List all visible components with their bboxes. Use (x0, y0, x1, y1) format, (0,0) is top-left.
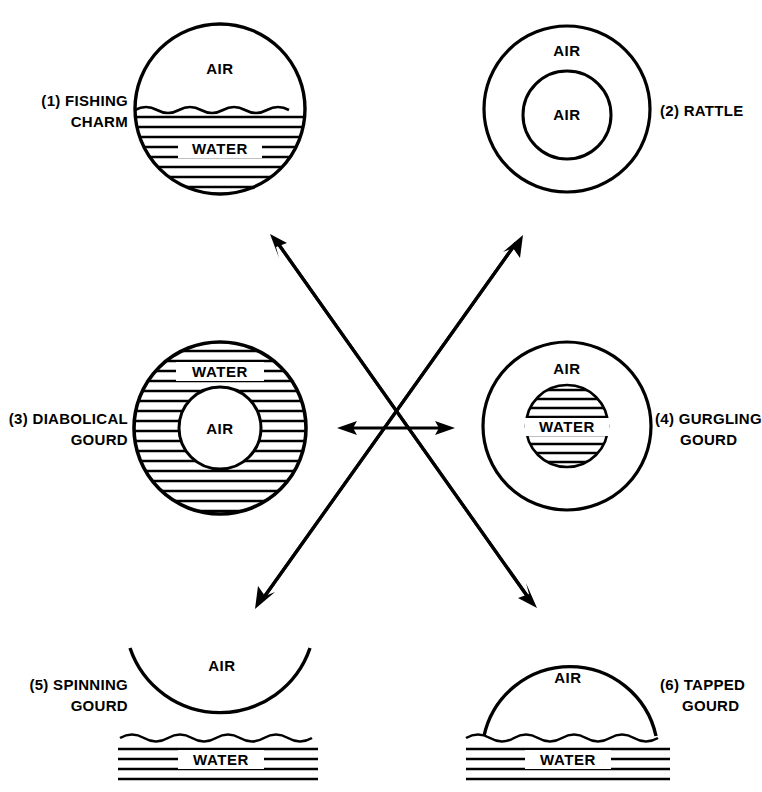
gourd-configurations-figure: AIR WATER (1) FISHING CHARM AIR AIR (2) … (0, 0, 762, 792)
arrow-down-right (277, 242, 537, 608)
tapped-gourd-surface-wave (466, 735, 658, 742)
panel-rattle: AIR AIR (2) RATTLE (484, 26, 744, 192)
panel-gurgling-gourd: AIR WATER (4) GURGLING GOURD (483, 342, 762, 510)
callout-tapped-gourd-line1: (6) TAPPED (660, 676, 745, 693)
callout-diabolical-gourd-line1: (3) DIABOLICAL (9, 410, 128, 427)
fishing-charm-water-label: WATER (192, 140, 248, 157)
tapped-gourd-water-label: WATER (540, 751, 596, 768)
tapped-gourd-air-label: AIR (554, 669, 582, 686)
callout-fishing-charm-line1: (1) FISHING (41, 92, 128, 109)
fishing-charm-surface-wave (135, 107, 289, 113)
panel-diabolical-gourd: WATER AIR (3) DIABOLICAL GOURD (9, 342, 314, 514)
diabolical-gourd-air-label: AIR (206, 420, 234, 437)
callout-fishing-charm-line2: CHARM (71, 113, 128, 130)
callout-diabolical-gourd-line2: GOURD (71, 431, 128, 448)
arrow-down-left-head (255, 586, 275, 609)
callout-gurgling-gourd-line2: GOURD (680, 431, 737, 448)
callout-spinning-gourd-line1: (5) SPINNING (29, 676, 128, 693)
arrow-horizontal-double (337, 421, 455, 435)
spinning-gourd-surface-wave (120, 735, 312, 742)
panel-fishing-charm: AIR WATER (1) FISHING CHARM (41, 24, 312, 194)
diabolical-gourd-water-label: WATER (192, 363, 248, 380)
callout-tapped-gourd-line2: GOURD (682, 697, 739, 714)
fishing-charm-outline (135, 24, 305, 194)
rattle-outer-air-label: AIR (553, 42, 581, 59)
callout-spinning-gourd-line2: GOURD (71, 697, 128, 714)
gurgling-gourd-air-label: AIR (553, 360, 581, 377)
spinning-gourd-water-label: WATER (193, 751, 249, 768)
fishing-charm-air-label: AIR (206, 60, 234, 77)
arrow-down-left (255, 243, 516, 609)
rattle-inner-air-label: AIR (553, 106, 581, 123)
callout-rattle-line1: (2) RATTLE (660, 102, 744, 119)
panel-spinning-gourd: AIR WATER (5) SPINNING GOURD (29, 648, 318, 779)
callout-gurgling-gourd-line1: (4) GURGLING (655, 410, 762, 427)
spinning-gourd-air-label: AIR (208, 657, 236, 674)
panel-tapped-gourd: AIR WATER (6) TAPPED GOURD (466, 667, 745, 779)
gurgling-gourd-water-label: WATER (539, 418, 595, 435)
